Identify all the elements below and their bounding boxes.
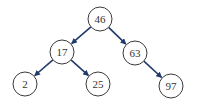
tree-node-2: 2 (13, 72, 37, 96)
edge-46-to-63 (109, 27, 126, 44)
node-label: 63 (130, 47, 142, 59)
nodes-group: 46176322597 (13, 7, 183, 98)
tree-node-63: 63 (123, 41, 147, 65)
edge-63-to-97 (144, 61, 162, 77)
edge-17-to-25 (71, 60, 88, 75)
node-label: 25 (93, 78, 105, 90)
edge-17-to-2 (35, 60, 53, 76)
tree-node-46: 46 (88, 7, 112, 31)
edge-46-to-17 (72, 27, 91, 44)
node-label: 97 (166, 80, 178, 92)
node-label: 17 (57, 46, 69, 58)
tree-node-17: 17 (50, 40, 74, 64)
tree-node-97: 97 (159, 74, 183, 98)
tree-diagram: 46176322597 (0, 0, 198, 107)
node-label: 2 (22, 78, 28, 90)
node-label: 46 (95, 13, 107, 25)
tree-node-25: 25 (86, 72, 110, 96)
